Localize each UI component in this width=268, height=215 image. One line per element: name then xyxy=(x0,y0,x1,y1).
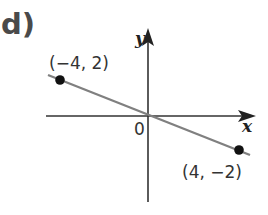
point-4-neg2 xyxy=(234,145,244,155)
y-axis-label: y xyxy=(134,28,146,48)
point-label-4-neg2: (4, −2) xyxy=(182,162,242,182)
point-neg4-2 xyxy=(55,75,65,85)
coordinate-plane: y x 0 (−4, 2) (4, −2) xyxy=(0,0,268,215)
graph-line xyxy=(48,75,250,155)
x-axis-label: x xyxy=(241,116,253,136)
origin-label: 0 xyxy=(134,119,145,139)
point-label-neg4-2: (−4, 2) xyxy=(49,53,109,73)
